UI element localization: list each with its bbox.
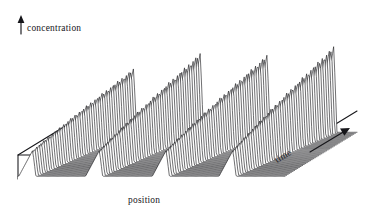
up-arrow-head-icon [18, 15, 25, 23]
waterfall-plot: concentration position time [0, 0, 371, 214]
concentration-axis: concentration [18, 15, 82, 34]
trace-group [18, 47, 357, 207]
figure-container: concentration position time [0, 0, 371, 214]
concentration-label: concentration [27, 23, 81, 33]
position-axis: position [128, 195, 160, 205]
position-label: position [128, 195, 160, 205]
